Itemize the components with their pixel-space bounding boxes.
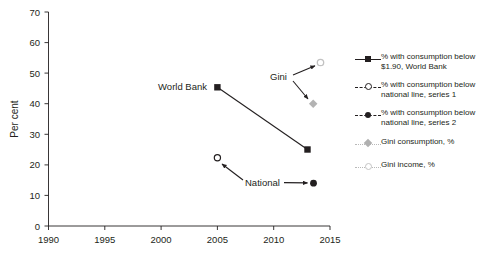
y-tick-label-10: 10 — [29, 190, 40, 201]
legend-label-world-bank: % with consumption below $1.90, World Ba… — [381, 52, 475, 71]
legend-item-world-bank[interactable]: % with consumption below $1.90, World Ba… — [355, 52, 503, 71]
legend-label-national-series-1-line1: % with consumption below — [381, 80, 475, 90]
y-tick-label-20: 20 — [29, 159, 40, 170]
legend-key-open-diamond-icon — [355, 161, 381, 174]
annotation-leader-national-to-open-circle — [222, 164, 243, 180]
legend-key-open-circle-icon — [355, 81, 381, 94]
annotation-gini: Gini — [270, 71, 287, 82]
x-tick-label-1990: 1990 — [38, 234, 59, 245]
legend-key-filled-square-icon — [355, 53, 381, 66]
y-tick-label-30: 30 — [29, 129, 40, 140]
legend-item-gini-income[interactable]: Gini income, % — [355, 160, 503, 174]
x-tick-label-1995: 1995 — [94, 234, 115, 245]
chart-figure: 70 60 50 40 30 20 10 0 Per cent 1990 199… — [0, 0, 503, 260]
y-axis-title: Per cent — [9, 100, 20, 137]
data-point-gini-consumption-2013 — [309, 99, 317, 107]
y-tick-label-60: 60 — [29, 37, 40, 48]
legend-item-gini-consumption[interactable]: Gini consumption, % — [355, 137, 503, 151]
legend-item-national-series-2[interactable]: % with consumption below national line, … — [355, 108, 503, 127]
y-tick-label-70: 70 — [29, 7, 40, 18]
data-point-gini-income-2013 — [317, 59, 323, 65]
legend-label-gini-consumption-line1: Gini consumption, % — [381, 137, 454, 147]
data-point-national-series2-2013 — [310, 180, 317, 187]
chart-legend: % with consumption below $1.90, World Ba… — [355, 52, 503, 183]
legend-label-national-series-2: % with consumption below national line, … — [381, 108, 475, 127]
legend-label-world-bank-line1: % with consumption below — [381, 52, 475, 62]
data-point-world-bank-2013 — [304, 146, 310, 152]
x-tick-label-2005: 2005 — [207, 234, 228, 245]
legend-label-gini-income: Gini income, % — [381, 160, 435, 170]
x-tick-label-2000: 2000 — [151, 234, 172, 245]
legend-label-world-bank-line2: $1.90, World Bank — [381, 62, 475, 72]
y-tick-label-0: 0 — [35, 221, 40, 232]
x-tick-label-2010: 2010 — [263, 234, 284, 245]
legend-label-national-series-2-line1: % with consumption below — [381, 108, 475, 118]
legend-label-national-series-1: % with consumption below national line, … — [381, 80, 475, 99]
data-point-national-series1-2005 — [214, 155, 220, 161]
legend-label-national-series-1-line2: national line, series 1 — [381, 90, 475, 100]
legend-key-filled-diamond-icon — [355, 138, 381, 151]
annotation-world-bank: World Bank — [158, 81, 207, 92]
legend-label-gini-income-line1: Gini income, % — [381, 160, 435, 170]
annotation-leader-gini-to-income — [293, 66, 315, 75]
series-line-world-bank — [217, 87, 307, 149]
y-tick-label-40: 40 — [29, 98, 40, 109]
legend-key-filled-circle-icon — [355, 109, 381, 122]
data-point-world-bank-2005 — [214, 84, 220, 90]
y-tick-label-50: 50 — [29, 68, 40, 79]
legend-label-gini-consumption: Gini consumption, % — [381, 137, 454, 147]
y-axis-ticks — [45, 12, 49, 226]
annotation-national: National — [245, 177, 280, 188]
x-tick-label-2015: 2015 — [319, 234, 340, 245]
annotation-leader-gini-to-consumption — [293, 81, 308, 99]
x-axis-ticks — [49, 226, 331, 230]
legend-label-national-series-2-line2: national line, series 2 — [381, 118, 475, 128]
legend-item-national-series-1[interactable]: % with consumption below national line, … — [355, 80, 503, 99]
